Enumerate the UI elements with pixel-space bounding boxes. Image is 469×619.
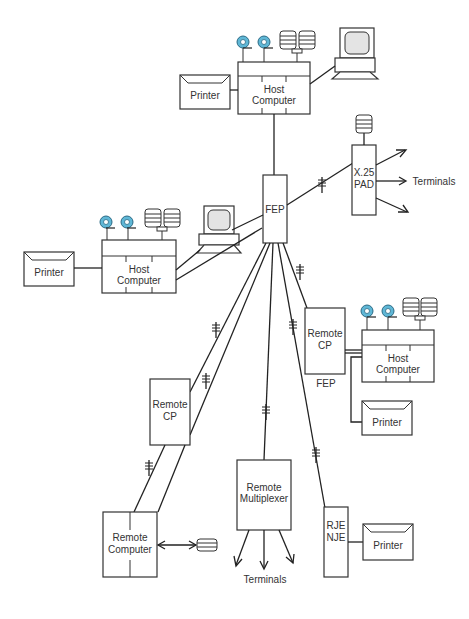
printer-top: Printer (180, 75, 230, 109)
remote-multiplexer: Remote Multiplexer (237, 460, 291, 530)
disk-stack-icon (356, 115, 372, 133)
host-top-label-1: Host (264, 84, 285, 95)
svg-text:Remote: Remote (307, 328, 342, 339)
tape-reel-icon (237, 36, 252, 62)
svg-text:Printer: Printer (372, 417, 402, 428)
remote-cp-left: Remote CP (150, 379, 190, 445)
disk-stack-icon (145, 209, 180, 240)
disk-stack-icon (280, 31, 315, 62)
tape-reel-icon (100, 216, 115, 240)
svg-text:CP: CP (318, 340, 332, 351)
svg-text:Host: Host (129, 264, 150, 275)
svg-text:X.25: X.25 (354, 167, 375, 178)
svg-text:Printer: Printer (373, 540, 403, 551)
svg-text:PAD: PAD (354, 179, 374, 190)
svg-text:Computer: Computer (117, 275, 162, 286)
printer-rje: Printer (363, 524, 413, 560)
svg-text:FEP: FEP (265, 204, 285, 215)
svg-text:Host: Host (388, 353, 409, 364)
terminals-mux-label: Terminals (244, 574, 287, 585)
terminals-pad-label: Terminals (413, 176, 456, 187)
remote-cp-right: Remote CP FEP (305, 308, 345, 389)
disk-stack-icon (197, 539, 217, 551)
tape-reel-icon (121, 216, 136, 240)
disk-stack-icon (403, 298, 437, 330)
modem-line-icon (202, 373, 210, 389)
x25-pad: X.25 PAD (352, 145, 376, 215)
tape-reel-icon (361, 305, 376, 330)
svg-text:CP: CP (163, 411, 177, 422)
host-computer-left: Host Computer (102, 240, 176, 293)
remote-computer: Remote Computer (103, 512, 157, 577)
svg-text:NJE: NJE (327, 532, 346, 543)
modem-line-icon (289, 319, 297, 335)
svg-text:Computer: Computer (108, 544, 153, 555)
host-top-label-2: Computer (252, 95, 297, 106)
arrow-icon (234, 530, 294, 569)
svg-text:Printer: Printer (190, 90, 220, 101)
modem-line-icon (312, 447, 320, 463)
svg-text:Printer: Printer (34, 267, 64, 278)
fep-caption: FEP (316, 378, 336, 389)
svg-text:Computer: Computer (376, 364, 421, 375)
svg-text:Remote: Remote (246, 482, 281, 493)
svg-text:Remote: Remote (152, 399, 187, 410)
arrow-icon (158, 541, 196, 549)
svg-text:Remote: Remote (112, 532, 147, 543)
tape-reel-icon (382, 305, 397, 330)
modem-line-icon (262, 404, 270, 420)
fep-central: FEP (263, 175, 287, 243)
svg-text:RJE: RJE (327, 520, 346, 531)
host-computer-right: Host Computer (362, 330, 434, 382)
modem-line-icon (296, 264, 304, 280)
printer-left: Printer (24, 252, 74, 286)
host-computer-top: Host Computer (238, 62, 310, 114)
tape-reel-icon (258, 36, 273, 62)
terminal-monitor-icon (332, 28, 378, 79)
svg-text:Multiplexer: Multiplexer (240, 493, 289, 504)
rje-nje: RJE NJE (324, 507, 348, 577)
arrow-icon (376, 150, 408, 212)
printer-right: Printer (362, 401, 412, 435)
network-diagram: Host Computer Printer FEP X.25 PAD (0, 0, 469, 619)
